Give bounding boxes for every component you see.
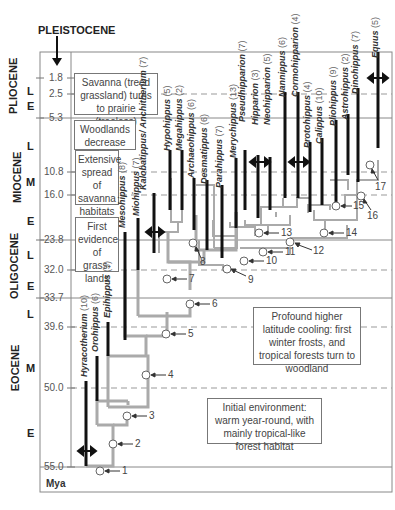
- note-first-grasslands: First evidence of grass-lands: [75, 217, 119, 272]
- genus-desmatippus: Desmatippus (6): [199, 114, 209, 184]
- node-5: 5: [188, 328, 194, 339]
- tick-5-3: 5.3: [49, 112, 63, 123]
- note-initial-environment: Initial environment: warm year-round, wi…: [207, 398, 322, 444]
- node-7: 7: [189, 273, 195, 284]
- miocene-early: E: [27, 215, 34, 227]
- genus-dinohippus: Dinohippus (7): [350, 31, 360, 94]
- genus-epihippus: Epihippus (3): [102, 261, 112, 318]
- node-11: 11: [285, 246, 295, 257]
- note-woodlands-decrease: Woodlands decrease: [74, 120, 136, 150]
- eocene-early: E: [27, 427, 34, 439]
- oligocene-early: E: [27, 280, 34, 292]
- genus-pseudhipparion: Pseudhipparion (7): [237, 40, 247, 122]
- node-8: 8: [200, 256, 206, 267]
- genus-equus: Equus (5): [370, 17, 380, 58]
- genus-hyracotherium: Hyracotherium (10): [79, 295, 89, 377]
- epoch-eocene: EOCENE: [9, 343, 21, 393]
- genus-neohipparion: Neohipparion (5): [262, 53, 272, 125]
- node-15: 15: [353, 200, 364, 211]
- horse-evolution-phylogeny: PLEISTOCENE PLIOCENE MIOCENE OLIGOCENE E…: [0, 0, 395, 510]
- node-16: 16: [367, 210, 378, 221]
- note-savanna-spread: Extensive spread of savanna habitats: [75, 150, 119, 205]
- tick-50-0: 50.0: [44, 382, 63, 393]
- tick-39-6: 39.6: [44, 321, 63, 332]
- genus-protohippus: Protohippus (4): [302, 81, 312, 148]
- genus-mesohippus: Mesohippus (8): [117, 162, 127, 228]
- genus-archaeohippus: Archaeohippus (6): [186, 99, 196, 178]
- tick-1-8: 1.8: [49, 72, 63, 83]
- genus-nannippus: Nannippus (6): [277, 37, 287, 97]
- tick-2-5: 2.5: [49, 88, 63, 99]
- node-1: 1: [122, 465, 128, 476]
- pliocene-early: E: [27, 100, 34, 112]
- genus-cormohipparion: Cormohipparion (4): [290, 13, 300, 97]
- eocene-middle: M: [26, 362, 35, 374]
- tick-10-8: 10.8: [44, 166, 63, 177]
- epoch-pliocene: PLIOCENE: [7, 64, 19, 114]
- tick-16-0: 16.0: [44, 189, 63, 200]
- node-12: 12: [313, 245, 324, 256]
- genus-hipparion: Hipparion (3): [250, 69, 260, 125]
- epoch-miocene: MIOCENE: [11, 153, 23, 203]
- tick-32-0: 32.0: [44, 264, 63, 275]
- node-4: 4: [168, 369, 174, 380]
- node-2: 2: [135, 438, 141, 449]
- genus-calippus: Calippus (10): [314, 87, 324, 144]
- genus-megahippus: Megahippus (2): [174, 85, 184, 151]
- eocene-late: L: [27, 308, 34, 320]
- genus-orohippus: Orohippus (6): [90, 293, 100, 352]
- genus-pliohippus: Pliohippus (9): [328, 66, 338, 126]
- tick-55-0: 55.0: [44, 461, 63, 472]
- genus-kalobatippus-anchitherium: Kalobatippus/ Anchitherium (7): [138, 57, 148, 190]
- node-9: 9: [248, 274, 254, 285]
- miocene-late: L: [27, 140, 34, 152]
- axis-unit-mya: Mya: [46, 478, 65, 489]
- node-14: 14: [346, 227, 357, 238]
- miocene-middle: M: [26, 176, 35, 188]
- genus-astrohippus: Astrohippus (2): [340, 53, 350, 120]
- tick-23-8: 23.8: [44, 234, 63, 245]
- pliocene-late: L: [27, 85, 34, 97]
- note-higher-latitude-cooling: Profound higher latitude cooling: first …: [253, 307, 361, 365]
- node-10: 10: [266, 255, 277, 266]
- tick-33-7: 33.7: [44, 292, 63, 303]
- node-3: 3: [149, 410, 155, 421]
- epoch-oligocene: OLIGOCENE: [8, 239, 20, 299]
- pleistocene-label: PLEISTOCENE: [38, 24, 115, 36]
- node-13: 13: [281, 227, 292, 238]
- genus-parahippus: Parahippus (7): [214, 125, 224, 188]
- node-17: 17: [375, 181, 386, 192]
- node-6: 6: [212, 298, 218, 309]
- genus-hypohippus: Hypohippus (5): [162, 85, 172, 151]
- oligocene-late: L: [27, 249, 34, 261]
